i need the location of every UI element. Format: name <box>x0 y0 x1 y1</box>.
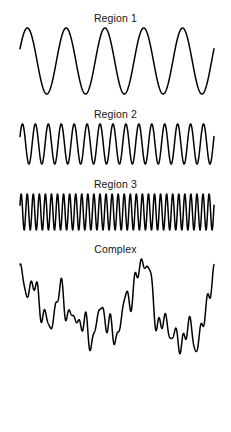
panel-region-3: Region 3 <box>0 167 231 233</box>
panel-region-1: Region 1 <box>0 0 231 97</box>
panel-title-region-2: Region 2 <box>0 97 231 121</box>
waveform-region-2 <box>0 121 231 167</box>
waveform-region-3 <box>0 191 231 233</box>
waveform-complex <box>0 256 231 368</box>
waveform-svg-region-1 <box>0 25 231 97</box>
wave-trace <box>20 194 214 230</box>
wave-trace <box>20 28 214 94</box>
waveform-region-1 <box>0 25 231 97</box>
waveform-figure: Region 1 Region 2 Region 3 Complex <box>0 0 231 432</box>
panel-region-2: Region 2 <box>0 97 231 167</box>
wave-trace <box>20 259 214 354</box>
wave-trace <box>20 124 214 164</box>
waveform-svg-complex <box>0 256 231 368</box>
panel-title-region-1: Region 1 <box>0 0 231 25</box>
panel-complex: Complex <box>0 233 231 368</box>
panel-title-complex: Complex <box>0 233 231 256</box>
waveform-svg-region-2 <box>0 121 231 167</box>
panel-title-region-3: Region 3 <box>0 167 231 191</box>
waveform-svg-region-3 <box>0 191 231 233</box>
